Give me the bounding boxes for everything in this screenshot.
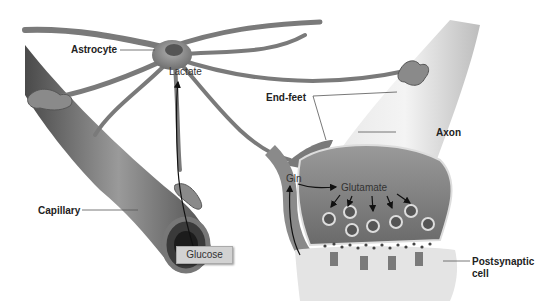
label-end-feet: End-feet (266, 92, 306, 103)
label-postsynaptic-cell-line1: Postsynaptic (472, 256, 534, 267)
diagram-canvas: Astrocyte Lactate End-feet Axon Capillar… (0, 0, 555, 301)
label-astrocyte: Astrocyte (71, 44, 117, 55)
label-gln: Gln (286, 173, 302, 184)
astrocyte-nucleus (165, 44, 183, 56)
postsynaptic-cell-shape (295, 246, 457, 301)
label-glutamate: Glutamate (341, 182, 387, 193)
axon-shape (330, 20, 480, 165)
label-lactate: Lactate (169, 66, 202, 77)
label-glucose: Glucose (176, 246, 233, 264)
label-capillary: Capillary (38, 205, 80, 216)
label-postsynaptic-cell-line2: cell (472, 268, 489, 279)
label-axon: Axon (436, 127, 461, 138)
